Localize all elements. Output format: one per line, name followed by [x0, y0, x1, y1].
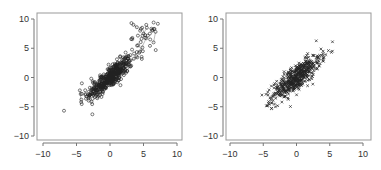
y-tick-label: 10	[19, 14, 29, 24]
x-tick-label: 10	[358, 149, 368, 159]
y-tick-label: −5	[208, 102, 218, 112]
x-tick-label: 5	[327, 149, 332, 159]
scatter-figure: −10−505101050−5−10 −10−505101050−5−10	[0, 0, 381, 170]
data-points	[261, 40, 334, 110]
y-tick-label: 5	[213, 43, 218, 53]
x-axis: −10−50510	[35, 143, 182, 159]
data-points	[63, 21, 160, 116]
y-tick-label: 0	[213, 73, 218, 83]
x-tick-label: 5	[141, 149, 146, 159]
y-tick-label: 10	[208, 14, 218, 24]
x-tick-label: −10	[35, 149, 50, 159]
y-tick-label: −10	[14, 131, 29, 141]
left-scatter-plot: −10−505101050−5−10	[14, 13, 182, 159]
x-tick-label: 0	[107, 149, 112, 159]
y-axis: 1050−5−10	[203, 14, 223, 141]
x-tick-label: 10	[172, 149, 182, 159]
y-tick-label: −5	[19, 102, 29, 112]
y-tick-label: −10	[203, 131, 218, 141]
x-tick-label: −10	[222, 149, 237, 159]
x-tick-label: −5	[71, 149, 81, 159]
y-tick-label: 5	[24, 43, 29, 53]
y-axis: 1050−5−10	[14, 14, 34, 141]
x-axis: −10−50510	[222, 143, 368, 159]
x-tick-label: 0	[294, 149, 299, 159]
x-tick-label: −5	[258, 149, 268, 159]
right-scatter-plot: −10−505101050−5−10	[203, 13, 371, 159]
y-tick-label: 0	[24, 73, 29, 83]
